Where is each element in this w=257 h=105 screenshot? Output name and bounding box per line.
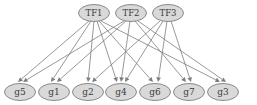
- arrowhead-icon: [119, 77, 124, 82]
- gene-node-label: g6: [149, 87, 161, 97]
- gene-node-label: g4: [115, 87, 127, 97]
- edge-tf3-to-g6: [156, 21, 167, 82]
- arrowhead-icon: [221, 77, 226, 82]
- network-diagram: TF1TF2TF3g5g1g2g4g6g7g3: [0, 0, 257, 105]
- arrowhead-icon: [187, 77, 191, 82]
- gene-node-g4[interactable]: g4: [106, 84, 137, 101]
- tf-node-label: TF3: [160, 8, 177, 18]
- arrowhead-icon: [51, 77, 55, 82]
- edge-tf1-to-g1: [51, 21, 91, 82]
- gene-node-g7[interactable]: g7: [174, 84, 205, 101]
- edge-tf3-to-g4: [125, 21, 163, 82]
- edges-layer: [18, 21, 226, 82]
- tf-node-label: TF2: [123, 8, 140, 18]
- gene-node-label: g2: [82, 87, 94, 97]
- edge-tf1-to-g5: [18, 21, 89, 82]
- network-svg: TF1TF2TF3g5g1g2g4g6g7g3: [0, 0, 257, 105]
- edge-tf3-to-g7: [171, 21, 192, 82]
- edge-tf2-to-g5: [23, 21, 124, 82]
- gene-node-g3[interactable]: g3: [208, 84, 239, 101]
- edge-tf2-to-g3: [138, 21, 226, 82]
- gene-node-g1[interactable]: g1: [39, 84, 70, 101]
- tf-node-TF1[interactable]: TF1: [79, 5, 110, 22]
- gene-node-label: g7: [183, 87, 195, 97]
- arrowhead-icon: [86, 77, 91, 82]
- tf-node-label: TF1: [86, 8, 103, 18]
- arrowhead-icon: [113, 77, 117, 82]
- edge-tf2-to-g4: [119, 21, 130, 82]
- gene-node-g5[interactable]: g5: [5, 84, 36, 101]
- gene-node-label: g3: [217, 87, 229, 97]
- gene-node-label: g1: [48, 87, 60, 97]
- tf-node-TF3[interactable]: TF3: [153, 5, 184, 22]
- tf-node-TF2[interactable]: TF2: [116, 5, 147, 22]
- edge-tf3-to-g2: [92, 21, 160, 82]
- gene-node-g6[interactable]: g6: [140, 84, 171, 101]
- arrowhead-icon: [156, 77, 161, 82]
- gene-node-label: g5: [14, 87, 26, 97]
- edge-tf2-to-g1: [57, 21, 126, 82]
- edge-tf2-to-g7: [135, 21, 186, 82]
- edge-tf1-to-g2: [86, 21, 94, 82]
- nodes-layer: TF1TF2TF3g5g1g2g4g6g7g3: [5, 5, 239, 101]
- gene-node-g2[interactable]: g2: [73, 84, 104, 101]
- arrowhead-icon: [125, 77, 129, 82]
